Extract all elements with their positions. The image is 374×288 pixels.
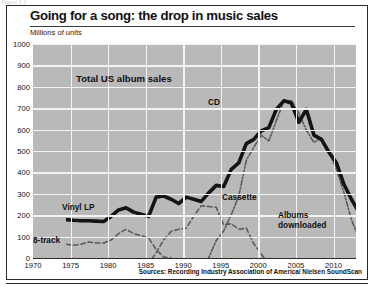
y-axis-tick-label: 600	[4, 126, 30, 135]
y-axis-tick-label: 500	[4, 147, 30, 156]
title-divider	[30, 26, 355, 27]
gridline-vertical	[183, 44, 184, 258]
y-axis-labels: 01002003004005006007008009001000	[2, 44, 30, 258]
gridline-horizontal	[33, 108, 356, 109]
annotation-cassette: Cassette	[222, 193, 257, 203]
page-title: Going for a song: the drop in music sale…	[30, 9, 350, 23]
gridline-horizontal	[33, 237, 356, 238]
bottom-divider	[6, 283, 368, 284]
y-axis-tick-label: 400	[4, 168, 30, 177]
gridline-vertical	[221, 44, 222, 258]
series-line-vinyl-lp	[66, 229, 239, 258]
series-line-total-us-album-sales	[66, 101, 356, 232]
y-axis-tick-label: 700	[4, 104, 30, 113]
y-axis-tick-label: 1000	[4, 40, 30, 49]
gridline-horizontal	[33, 194, 356, 195]
gridline-horizontal	[33, 151, 356, 152]
y-axis-tick-label: 900	[4, 61, 30, 70]
gridline-vertical	[258, 44, 259, 258]
x-axis-line	[33, 258, 356, 259]
gridline-horizontal	[33, 44, 356, 45]
source-note: Sources: Recording Industry Association …	[139, 268, 362, 275]
gridline-horizontal	[33, 65, 356, 66]
x-axis-tick-label: 1975	[62, 261, 79, 270]
axis-unit-label: Millions of units	[30, 28, 82, 37]
y-axis-tick-label: 100	[4, 233, 30, 242]
annotation-cd: CD	[208, 98, 220, 108]
figure-root: Figure 1.1 Going for a song: the drop in…	[0, 0, 374, 288]
annotation-8-track: 8-track	[33, 236, 60, 246]
gridline-vertical	[334, 44, 335, 258]
x-axis-tick-label: 1980	[100, 261, 117, 270]
x-axis-tick-label: 1970	[25, 261, 42, 270]
gridline-horizontal	[33, 172, 356, 173]
gridline-vertical	[71, 44, 72, 258]
y-axis-tick-label: 300	[4, 190, 30, 199]
gridline-horizontal	[33, 87, 356, 88]
y-axis-tick-label: 800	[4, 83, 30, 92]
annotation-total-sales: Total US album sales	[76, 74, 172, 84]
gridline-horizontal	[33, 130, 356, 131]
annotation-vinyl-lp: Vinyl LP	[62, 203, 95, 213]
y-axis-tick-label: 200	[4, 211, 30, 220]
annotation-albums-downloaded-line2: downloaded	[278, 221, 326, 231]
series-line-cd	[164, 100, 356, 258]
